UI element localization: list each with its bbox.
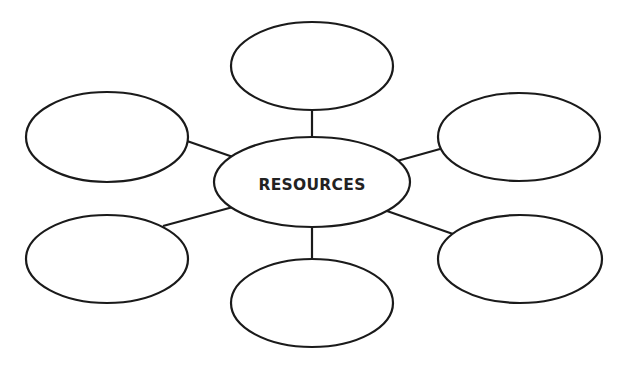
branch-node-top-right[interactable]: [438, 93, 600, 181]
branch-node-bottom[interactable]: [231, 259, 393, 347]
branch-node-bottom-left[interactable]: [26, 215, 188, 303]
branch-node-bottom-right[interactable]: [438, 215, 602, 303]
branch-node-top[interactable]: [231, 22, 393, 110]
center-node-label: RESOURCES: [214, 137, 410, 227]
branch-node-top-left[interactable]: [26, 92, 188, 182]
